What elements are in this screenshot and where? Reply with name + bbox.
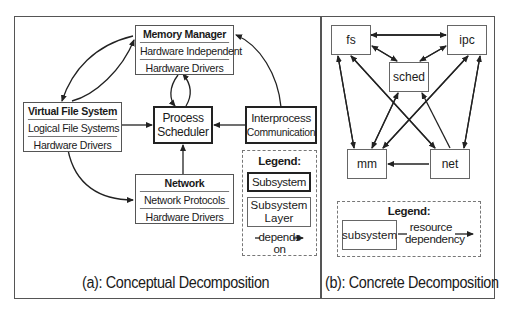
legend-a-depends-text: depends <box>242 231 317 243</box>
vfs-layer-2: Hardware Drivers <box>28 137 117 153</box>
memory-manager-box: Memory Manager Hardware Independent Hard… <box>135 25 234 75</box>
legend-a-layer-line2: Layer <box>265 212 294 225</box>
memory-manager-title: Memory Manager <box>140 26 229 43</box>
network-layer-2: Hardware Drivers <box>140 209 229 225</box>
legend-b-dep-line2: dependency <box>405 233 457 245</box>
vfs-title: Virtual File System <box>28 103 117 120</box>
legend-a-layer: Subsystem Layer <box>247 197 311 227</box>
legend-b-subsystem: subsystem <box>342 220 397 250</box>
node-mm: mm <box>347 149 387 179</box>
process-scheduler-box: Process Scheduler <box>153 106 213 144</box>
legend-a-depends-on: on <box>242 243 317 255</box>
process-scheduler-line2: Scheduler <box>157 125 208 139</box>
network-title: Network <box>140 175 229 192</box>
node-net: net <box>430 149 470 179</box>
legend-b-title: Legend: <box>337 205 481 217</box>
node-fs: fs <box>331 25 371 55</box>
vfs-box: Virtual File System Logical File Systems… <box>23 102 122 152</box>
vfs-layer-1: Logical File Systems <box>28 120 117 137</box>
node-sched: sched <box>389 62 429 92</box>
node-ipc: ipc <box>447 25 487 55</box>
ipc-line1: Interprocess <box>251 111 311 125</box>
memory-manager-layer-2: Hardware Drivers <box>140 60 229 76</box>
ipc-box: Interprocess Communication <box>245 106 317 144</box>
legend-a-title: Legend: <box>242 155 317 167</box>
legend-b-dep-line1: resource <box>405 221 457 233</box>
network-layer-1: Network Protocols <box>140 192 229 209</box>
process-scheduler-line1: Process <box>162 111 203 125</box>
legend-a-layer-line1: Subsystem <box>251 199 308 212</box>
network-box: Network Network Protocols Hardware Drive… <box>135 174 234 224</box>
ipc-line2: Communication <box>247 125 315 139</box>
caption-a: (a): Conceptual Decomposition <box>82 274 269 292</box>
memory-manager-layer-1: Hardware Independent <box>140 43 229 60</box>
legend-a-subsystem: Subsystem <box>247 172 311 192</box>
caption-b: (b): Concrete Decomposition <box>325 274 499 292</box>
